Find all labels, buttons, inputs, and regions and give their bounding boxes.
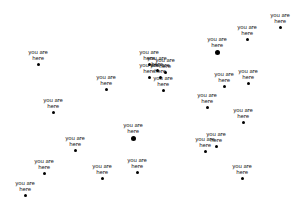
- location-dot-icon: [247, 82, 250, 85]
- you-are-here-marker: you arehere: [122, 158, 152, 174]
- location-dot-icon: [105, 88, 108, 91]
- location-dot-icon: [136, 171, 139, 174]
- you-are-here-marker: you arehere: [87, 164, 117, 180]
- marker-label-line2: here: [190, 143, 220, 149]
- marker-label-line2: here: [87, 170, 117, 176]
- you-are-here-marker: you arehere: [192, 93, 222, 109]
- you-are-here-marker: you arehere: [118, 123, 148, 141]
- you-are-here-marker: you arehere: [29, 159, 59, 175]
- you-are-here-map-canvas: you arehereyou arehereyou arehereyou are…: [0, 0, 305, 209]
- location-dot-icon: [162, 89, 165, 92]
- you-are-here-marker: you arehere: [38, 98, 68, 114]
- location-dot-icon: [24, 194, 27, 197]
- you-are-here-marker: you arehere: [227, 164, 257, 180]
- you-are-here-marker: you arehere: [265, 13, 295, 29]
- location-dot-icon: [241, 177, 244, 180]
- marker-label-line2: here: [228, 114, 258, 120]
- location-dot-icon: [204, 150, 207, 153]
- marker-label-line2: here: [148, 82, 178, 88]
- location-dot-icon: [52, 111, 55, 114]
- you-are-here-marker: you arehere: [150, 58, 180, 74]
- location-dot-icon: [223, 85, 226, 88]
- marker-label-line2: here: [91, 81, 121, 87]
- location-dot-icon: [148, 76, 151, 79]
- marker-label-line2: here: [23, 56, 53, 62]
- location-dot-icon: [37, 63, 40, 66]
- marker-label-line2: here: [202, 43, 232, 49]
- you-are-here-marker: you arehere: [202, 37, 232, 55]
- you-are-here-marker: you arehere: [190, 137, 220, 153]
- you-are-here-marker: you arehere: [23, 50, 53, 66]
- marker-label-line2: here: [10, 187, 40, 193]
- location-dot-icon: [131, 136, 136, 141]
- marker-label-line2: here: [60, 142, 90, 148]
- location-dot-icon: [215, 50, 220, 55]
- marker-label-line2: here: [232, 31, 262, 37]
- location-dot-icon: [242, 121, 245, 124]
- you-are-here-marker: you arehere: [232, 25, 262, 41]
- location-dot-icon: [74, 149, 77, 152]
- location-dot-icon: [101, 177, 104, 180]
- marker-label-line2: here: [38, 104, 68, 110]
- you-are-here-marker: you arehere: [10, 181, 40, 197]
- marker-label-line2: here: [29, 165, 59, 171]
- you-are-here-marker: you arehere: [233, 69, 263, 85]
- location-dot-icon: [43, 172, 46, 175]
- you-are-here-marker: you arehere: [60, 136, 90, 152]
- marker-label-line2: here: [227, 170, 257, 176]
- marker-label-line2: here: [150, 64, 180, 70]
- location-dot-icon: [246, 38, 249, 41]
- location-dot-icon: [206, 106, 209, 109]
- location-dot-icon: [279, 26, 282, 29]
- location-dot-icon: [164, 71, 167, 74]
- marker-label-line2: here: [192, 99, 222, 105]
- you-are-here-marker: you arehere: [91, 75, 121, 91]
- marker-label-line2: here: [122, 164, 152, 170]
- marker-label-line2: here: [233, 75, 263, 81]
- marker-label-line2: here: [265, 19, 295, 25]
- marker-label-line2: here: [118, 129, 148, 135]
- you-are-here-marker: you arehere: [228, 108, 258, 124]
